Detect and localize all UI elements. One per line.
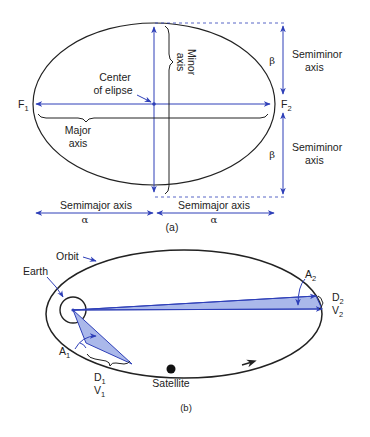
semiminor-bottom-label-line2: axis (305, 154, 324, 166)
focus2-label: F2 (281, 98, 292, 113)
kepler-ellipse-diagram: F1 F2 Center of elipse Major axis Minor … (0, 0, 370, 437)
semimajor-right-label: Semimajor axis (178, 199, 250, 211)
orbit-direction-arrow (242, 362, 252, 365)
major-axis-label-line1: Major (65, 124, 92, 136)
V2-label: V2 (332, 304, 343, 319)
semiminor-bottom-label-line1: Semiminor (292, 141, 343, 153)
panel-a-caption: (a) (166, 221, 179, 233)
V1-label: V1 (94, 384, 105, 399)
major-axis-brace (38, 114, 268, 122)
orbit-pointer-arrow (83, 257, 96, 261)
beta-bottom: β (269, 149, 275, 160)
orbit-ellipse (46, 250, 322, 378)
earth-center (71, 308, 74, 311)
alpha-right: α (211, 214, 218, 225)
center-point (152, 102, 156, 106)
semiminor-top-label-line2: axis (305, 61, 324, 73)
satellite-label: Satellite (152, 377, 190, 389)
area-A1 (73, 310, 132, 364)
earth-label: Earth (23, 265, 48, 277)
earth-pointer-arrow (47, 277, 63, 297)
center-pointer-arrow (137, 95, 151, 102)
satellite (167, 365, 176, 374)
semimajor-left-label: Semimajor axis (60, 199, 132, 211)
A1-label: A1 (59, 345, 70, 360)
panel-a: F1 F2 Center of elipse Major axis Minor … (18, 23, 343, 233)
center-label-line1: Center (99, 71, 131, 83)
alpha-left: α (82, 214, 89, 225)
orbit-label: Orbit (56, 250, 79, 262)
major-axis-label-line2: axis (69, 137, 88, 149)
A1-arc-arrow (80, 343, 86, 348)
semiminor-top-label-line1: Semiminor (292, 48, 343, 60)
A2-label: A2 (305, 268, 316, 283)
panel-b-caption: (b) (180, 402, 192, 413)
beta-top: β (269, 55, 275, 66)
minor-axis-brace (165, 26, 173, 194)
minor-axis-label-line2: axis (175, 53, 187, 72)
panel-b: Orbit Earth Satellite A1 D1 V1 A2 D2 V2 … (23, 250, 344, 413)
focus1-label: F1 (18, 98, 29, 113)
center-label-line2: of elipse (93, 84, 132, 96)
